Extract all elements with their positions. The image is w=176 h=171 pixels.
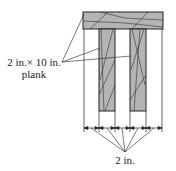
plank-label-line1: 2 in.× 10 in. — [2, 56, 66, 68]
dimension-leaders — [91, 128, 154, 152]
t-beam-diagram — [0, 0, 176, 171]
extension-lines — [84, 29, 162, 132]
dimension-line — [84, 127, 162, 130]
left-post — [99, 29, 115, 111]
plank-label: 2 in.× 10 in. plank — [2, 56, 66, 80]
right-post — [130, 29, 146, 111]
top-plank — [83, 12, 163, 29]
plank-label-line2: plank — [2, 68, 66, 80]
dimension-label: 2 in. — [105, 154, 145, 166]
